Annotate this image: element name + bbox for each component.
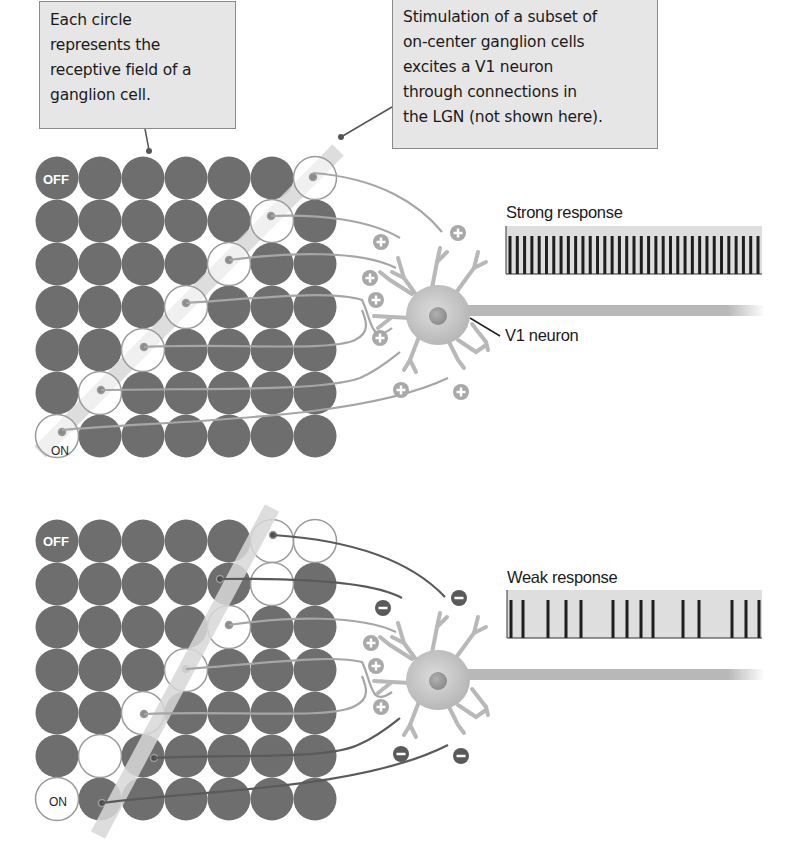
excitatory-synapse-icon bbox=[393, 382, 409, 398]
receptive-field-callout: Each circle represents the receptive fie… bbox=[39, 1, 236, 129]
off-receptive-field bbox=[79, 157, 122, 200]
off-receptive-field bbox=[251, 415, 294, 458]
off-receptive-field bbox=[251, 649, 294, 692]
off-receptive-field bbox=[36, 563, 79, 606]
off-receptive-field bbox=[122, 606, 165, 649]
off-receptive-field bbox=[208, 649, 251, 692]
inhibitory-synapse-icon bbox=[453, 748, 469, 764]
callout-line: through connections in bbox=[403, 80, 647, 105]
off-receptive-field bbox=[208, 329, 251, 372]
top-on-label: ON bbox=[51, 444, 69, 458]
left-callout-leader-dot bbox=[146, 148, 152, 154]
excitatory-synapse-icon bbox=[368, 292, 384, 308]
bottom-nucleus bbox=[429, 672, 447, 690]
off-receptive-field bbox=[36, 200, 79, 243]
stimulation-callout: Stimulation of a subset of on-center gan… bbox=[392, 0, 658, 149]
inhibitory-synapse-icon bbox=[451, 590, 467, 606]
off-receptive-field bbox=[208, 778, 251, 821]
weak-response-label: Weak response bbox=[507, 568, 617, 587]
off-receptive-field bbox=[294, 200, 337, 243]
off-receptive-field bbox=[294, 329, 337, 372]
off-receptive-field bbox=[36, 606, 79, 649]
off-receptive-field bbox=[122, 200, 165, 243]
top-panel bbox=[36, 107, 766, 458]
excitatory-synapse-icon bbox=[373, 699, 389, 715]
off-receptive-field bbox=[122, 372, 165, 415]
inhibitory-synapse-icon bbox=[375, 600, 391, 616]
off-receptive-field bbox=[251, 606, 294, 649]
off-receptive-field bbox=[165, 372, 208, 415]
off-receptive-field bbox=[79, 243, 122, 286]
left-callout-leader bbox=[145, 129, 149, 150]
off-receptive-field bbox=[79, 649, 122, 692]
right-callout-leader bbox=[341, 107, 392, 137]
off-receptive-field bbox=[294, 649, 337, 692]
off-receptive-field bbox=[79, 286, 122, 329]
v1-neuron-label: V1 neuron bbox=[505, 326, 578, 345]
excitatory-synapse-icon bbox=[362, 270, 378, 286]
callout-line: represents the bbox=[50, 33, 225, 58]
off-receptive-field bbox=[208, 157, 251, 200]
excitatory-synapse-icon bbox=[368, 658, 384, 674]
off-receptive-field bbox=[208, 286, 251, 329]
off-receptive-field bbox=[79, 415, 122, 458]
off-receptive-field bbox=[36, 372, 79, 415]
excitatory-synapse-icon bbox=[450, 225, 466, 241]
off-receptive-field bbox=[294, 563, 337, 606]
bottom-off-label: OFF bbox=[43, 534, 69, 549]
off-receptive-field bbox=[79, 606, 122, 649]
weak-response-box bbox=[507, 590, 762, 638]
bottom-on-label: ON bbox=[49, 795, 67, 809]
off-receptive-field bbox=[251, 243, 294, 286]
strong-response-label: Strong response bbox=[506, 203, 623, 222]
top-nucleus bbox=[429, 307, 447, 325]
off-receptive-field bbox=[122, 563, 165, 606]
off-receptive-field bbox=[36, 286, 79, 329]
off-receptive-field bbox=[36, 649, 79, 692]
off-receptive-field bbox=[79, 563, 122, 606]
off-receptive-field bbox=[251, 329, 294, 372]
strong-spike-train bbox=[510, 236, 758, 274]
excitatory-synapse-icon bbox=[363, 635, 379, 651]
off-receptive-field bbox=[36, 243, 79, 286]
off-receptive-field bbox=[122, 520, 165, 563]
off-receptive-field bbox=[294, 243, 337, 286]
off-receptive-field bbox=[165, 520, 208, 563]
off-receptive-field bbox=[79, 692, 122, 735]
off-receptive-field bbox=[165, 329, 208, 372]
off-receptive-field bbox=[251, 286, 294, 329]
off-receptive-field bbox=[165, 200, 208, 243]
on-receptive-field bbox=[79, 735, 122, 778]
callout-line: excites a V1 neuron bbox=[403, 55, 647, 80]
off-receptive-field bbox=[294, 606, 337, 649]
off-receptive-field bbox=[251, 372, 294, 415]
callout-line: receptive field of a bbox=[50, 58, 225, 83]
off-receptive-field bbox=[122, 415, 165, 458]
off-receptive-field bbox=[122, 649, 165, 692]
bottom-panel bbox=[36, 508, 766, 835]
on-receptive-field bbox=[251, 200, 294, 243]
on-receptive-field bbox=[251, 563, 294, 606]
off-receptive-field bbox=[36, 329, 79, 372]
off-receptive-field bbox=[36, 735, 79, 778]
off-receptive-field bbox=[36, 692, 79, 735]
callout-line: Each circle bbox=[50, 8, 225, 33]
excitatory-synapse-icon bbox=[372, 330, 388, 346]
inhibitory-synapse-icon bbox=[393, 746, 409, 762]
callout-line: on-center ganglion cells bbox=[403, 30, 647, 55]
excitatory-synapse-icon bbox=[373, 234, 389, 250]
top-off-label: OFF bbox=[43, 172, 69, 187]
top-axon bbox=[455, 305, 765, 316]
callout-line: ganglion cell. bbox=[50, 83, 225, 108]
off-receptive-field bbox=[294, 735, 337, 778]
off-receptive-field bbox=[122, 157, 165, 200]
off-receptive-field bbox=[165, 157, 208, 200]
excitatory-synapse-icon bbox=[453, 384, 469, 400]
off-receptive-field bbox=[294, 415, 337, 458]
callout-line: Stimulation of a subset of bbox=[403, 5, 647, 30]
bottom-axon bbox=[455, 669, 765, 680]
off-receptive-field bbox=[79, 200, 122, 243]
callout-line: the LGN (not shown here). bbox=[403, 105, 647, 130]
connection-origin-dot bbox=[310, 174, 317, 181]
off-receptive-field bbox=[122, 243, 165, 286]
